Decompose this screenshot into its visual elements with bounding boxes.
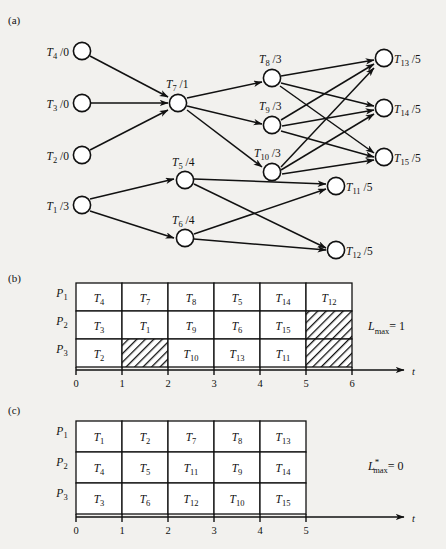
row-label-b-P3: P3: [55, 343, 67, 358]
node-label-T15: T15 /5: [394, 152, 421, 167]
node-T14[interactable]: [375, 99, 392, 116]
node-T9[interactable]: [263, 116, 280, 133]
tick-b-1: 1: [119, 378, 124, 389]
row-label-c-P1: P1: [55, 425, 67, 440]
edge-T7-T9: [187, 106, 262, 124]
node-T4[interactable]: [73, 42, 90, 59]
tick-c-3: 3: [211, 525, 216, 536]
gantt-chart-c: P1 P2 P3 T1 T2 T7 T8 T13 T4 T5 T11 T9 T1…: [55, 421, 416, 536]
row-label-c-P2: P2: [55, 456, 67, 471]
edge-T9-T13: [281, 64, 374, 120]
gantt-idle-b-r3c6[interactable]: [306, 339, 352, 367]
node-label-T11: T11 /5: [346, 181, 373, 196]
edge-T2-T7: [90, 110, 168, 150]
edge-T10-T13: [281, 68, 374, 167]
node-T6[interactable]: [176, 229, 193, 246]
row-label-b-P1: P1: [55, 287, 67, 302]
node-label-T10: T10 /3: [254, 147, 281, 162]
axis-ticks-c: [76, 514, 306, 522]
tick-c-0: 0: [73, 525, 78, 536]
node-label-T8: T8 /3: [259, 53, 282, 68]
tick-b-0: 0: [73, 378, 78, 389]
node-T1[interactable]: [73, 196, 90, 213]
tick-c-4: 4: [257, 525, 263, 536]
node-label-T3: T3 /0: [47, 98, 70, 113]
edge-T7-T8: [187, 82, 262, 98]
edge-T1-T5: [90, 179, 174, 199]
gantt-idle-b-r2c6[interactable]: [306, 311, 352, 339]
node-T11[interactable]: [327, 177, 344, 194]
node-label-T5: T5 /4: [172, 156, 195, 171]
node-label-T1: T1 /3: [47, 200, 70, 215]
edge-T6-T11: [194, 189, 326, 234]
node-label-T13: T13 /5: [394, 53, 421, 68]
graph-edges: [90, 56, 374, 250]
tick-c-5: 5: [303, 525, 308, 536]
gantt-idle-b-r3c2[interactable]: [122, 339, 168, 367]
edge-T6-T12: [194, 239, 326, 250]
edge-T7-T10: [187, 110, 262, 167]
node-label-T2: T2 /0: [47, 150, 70, 165]
annotation-lmax-c: L*max= 0: [367, 457, 404, 475]
edge-T10-T15: [282, 160, 374, 174]
tick-b-4: 4: [257, 378, 263, 389]
node-T2[interactable]: [73, 146, 90, 163]
tick-c-1: 1: [119, 525, 124, 536]
gantt-chart-b: P1 P2 P3 T4 T7 T8 T5 T14 T12 T3 T1 T9 T6…: [55, 283, 416, 389]
figure-canvas: T4 /0 T3 /0 T2 /0 T1 /3 T7 /1 T5 /4 T6 /…: [0, 0, 446, 549]
edge-T5-T12: [194, 184, 326, 248]
axis-ticks-b: [76, 367, 352, 375]
edge-T1-T6: [90, 211, 174, 238]
graph-nodes: [73, 42, 392, 258]
node-T13[interactable]: [375, 49, 392, 66]
row-label-b-P2: P2: [55, 315, 67, 330]
node-label-T14: T14 /5: [394, 103, 421, 118]
node-label-T7: T7 /1: [166, 78, 189, 93]
node-T8[interactable]: [263, 69, 280, 86]
tick-c-2: 2: [165, 525, 170, 536]
node-label-T6: T6 /4: [172, 214, 195, 229]
node-label-T12: T12 /5: [346, 245, 373, 260]
edge-T5-T11: [194, 179, 326, 184]
node-label-T4: T4 /0: [47, 46, 70, 61]
node-T15[interactable]: [375, 148, 392, 165]
tick-b-5: 5: [303, 378, 308, 389]
node-T10[interactable]: [263, 163, 280, 180]
axis-label-b-t: t: [412, 366, 416, 377]
annotation-lmax-b: Lmax= 1: [367, 319, 405, 336]
node-T5[interactable]: [176, 171, 193, 188]
tick-b-6: 6: [349, 378, 354, 389]
tick-b-2: 2: [165, 378, 170, 389]
node-T3[interactable]: [73, 94, 90, 111]
edge-T8-T13: [281, 60, 374, 76]
edge-T8-T14: [281, 83, 374, 106]
node-T12[interactable]: [327, 241, 344, 258]
tick-b-3: 3: [211, 378, 216, 389]
row-label-c-P3: P3: [55, 487, 67, 502]
node-label-T9: T9 /3: [259, 100, 282, 115]
node-T7[interactable]: [169, 94, 186, 111]
edge-T4-T7: [90, 56, 168, 97]
axis-label-c-t: t: [412, 513, 416, 524]
